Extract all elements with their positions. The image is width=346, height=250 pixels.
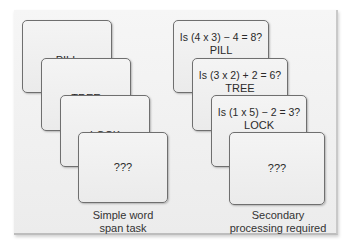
left-caption: Simple word span task <box>78 209 168 235</box>
card-word: TREE <box>225 82 254 95</box>
right-card-4: ??? <box>229 132 325 205</box>
card-question: Is (3 x 2) + 2 = 6? <box>199 69 281 82</box>
right-caption: Secondary processing required <box>222 209 334 235</box>
left-card-4: ??? <box>78 132 168 203</box>
card-question: Is (1 x 5) − 2 = 3? <box>218 106 300 119</box>
card-unknown: ??? <box>114 161 132 174</box>
card-word: LOCK <box>244 119 274 132</box>
card-question: Is (4 x 3) − 4 = 8? <box>180 31 262 44</box>
card-unknown: ??? <box>268 162 286 175</box>
card-word: PILL <box>210 44 233 57</box>
